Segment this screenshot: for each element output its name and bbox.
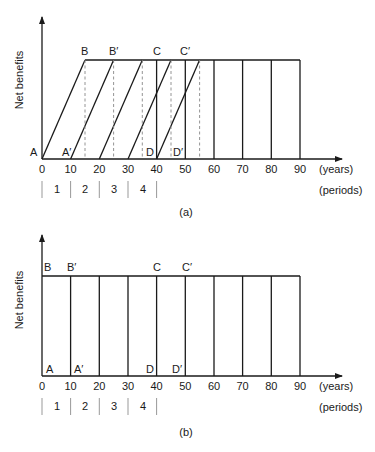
x-tick-labels: 0 10 20 30 40 50 60 70 80 90: [39, 380, 306, 392]
ramp-lines: [42, 60, 200, 159]
svg-text:3: 3: [111, 183, 117, 195]
label-A-prime: A′: [74, 363, 83, 375]
period-unit: (periods): [319, 401, 362, 413]
label-A: A: [30, 146, 38, 158]
svg-text:70: 70: [236, 163, 248, 175]
label-B: B: [81, 45, 88, 57]
caption-a: (a): [179, 206, 192, 218]
svg-text:1: 1: [54, 400, 60, 412]
figure: A A′ B B′ C C′ D D′ Net benefits 0 10 20…: [0, 0, 375, 452]
x-axis-unit: (years): [319, 380, 353, 392]
svg-text:3: 3: [111, 400, 117, 412]
svg-text:2: 2: [82, 183, 88, 195]
svg-text:70: 70: [236, 380, 248, 392]
svg-text:60: 60: [208, 163, 220, 175]
svg-text:40: 40: [150, 380, 162, 392]
label-B-prime: B′: [67, 261, 76, 273]
period-labels: 1 2 3 4: [54, 183, 146, 195]
svg-text:80: 80: [265, 380, 277, 392]
label-B-prime: B′: [109, 45, 118, 57]
svg-text:50: 50: [179, 163, 191, 175]
label-D-prime: D′: [172, 363, 182, 375]
label-D-prime: D′: [173, 146, 183, 158]
svg-text:40: 40: [150, 163, 162, 175]
svg-text:2: 2: [82, 400, 88, 412]
label-D: D: [146, 363, 154, 375]
solid-verticals: [71, 276, 300, 376]
svg-text:30: 30: [122, 163, 134, 175]
x-axis-unit: (years): [319, 163, 353, 175]
label-A-prime: A′: [62, 146, 71, 158]
svg-text:90: 90: [294, 163, 306, 175]
svg-text:10: 10: [64, 380, 76, 392]
panel-b: A A′ B B′ C C′ D D′ Net benefits 0 10 20…: [13, 235, 362, 438]
svg-text:4: 4: [140, 183, 146, 195]
label-C: C: [153, 45, 161, 57]
x-tick-labels: 0 10 20 30 40 50 60 70 80 90: [39, 163, 306, 175]
y-axis-title: Net benefits: [13, 270, 25, 329]
svg-text:30: 30: [122, 380, 134, 392]
label-D: D: [146, 146, 154, 158]
label-A: A: [46, 363, 54, 375]
svg-text:1: 1: [54, 183, 60, 195]
svg-text:80: 80: [265, 163, 277, 175]
panel-a: A A′ B B′ C C′ D D′ Net benefits 0 10 20…: [13, 17, 362, 218]
label-B: B: [44, 261, 51, 273]
svg-text:50: 50: [179, 380, 191, 392]
label-C-prime: C′: [180, 45, 190, 57]
svg-text:20: 20: [93, 380, 105, 392]
y-axis-title: Net benefits: [13, 50, 25, 109]
svg-text:90: 90: [294, 380, 306, 392]
svg-text:4: 4: [140, 400, 146, 412]
ramp-end-dashes: [85, 60, 200, 159]
caption-b: (b): [179, 426, 192, 438]
label-C: C: [153, 261, 161, 273]
svg-text:0: 0: [39, 163, 45, 175]
svg-text:10: 10: [64, 163, 76, 175]
period-labels: 1 2 3 4: [54, 400, 146, 412]
period-unit: (periods): [319, 184, 362, 196]
svg-text:0: 0: [39, 380, 45, 392]
svg-text:60: 60: [208, 380, 220, 392]
svg-text:20: 20: [93, 163, 105, 175]
label-C-prime: C′: [182, 261, 192, 273]
